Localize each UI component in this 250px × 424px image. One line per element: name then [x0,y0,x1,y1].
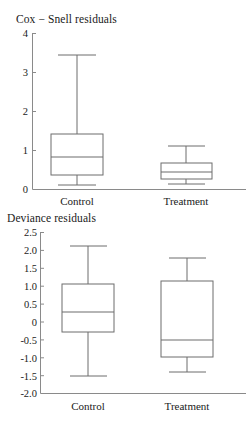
cox-snell-panel: Cox − Snell residuals 4 3 2 1 0 [0,0,250,212]
cox-ytick-2: 2 [23,106,28,117]
deviance-ytick-1p5: 1.5 [24,263,37,274]
deviance-ytick-m1p5: -1.5 [20,371,37,382]
cox-snell-plot: 4 3 2 1 0 Control Treatment [0,0,250,212]
cox-ytick-4: 4 [23,28,29,39]
deviance-ytick-2p5: 2.5 [24,227,37,238]
deviance-ytick-2p0: 2.0 [24,245,37,256]
deviance-box-treatment [161,258,213,372]
cox-ytick-1: 1 [23,145,28,156]
deviance-ytick-0p5: 0.5 [24,299,37,310]
cox-y-tickmarks [33,34,37,190]
deviance-y-tickmarks [41,233,45,394]
deviance-ytick-m0p5: -0.5 [20,335,37,346]
deviance-ytick-m2p0: -2.0 [20,388,37,399]
deviance-category-label-treatment: Treatment [165,400,210,412]
cox-box-control [51,55,103,185]
cox-ytick-3: 3 [23,67,28,78]
deviance-ytick-1p0: 1.0 [24,281,37,292]
deviance-ytick-m1p0: -1.0 [20,353,37,364]
deviance-plot: 2.5 2.0 1.5 1.0 0.5 0 -0.5 -1.0 -1.5 -2.… [0,205,250,424]
cox-box-treatment [161,146,212,184]
deviance-box-control [62,246,114,376]
deviance-category-label-control: Control [71,400,105,412]
cox-ytick-0: 0 [23,184,28,195]
deviance-ytick-0: 0 [32,317,37,328]
deviance-panel: Deviance residuals 2.5 2.0 1.5 1.0 0.5 0… [0,205,250,424]
